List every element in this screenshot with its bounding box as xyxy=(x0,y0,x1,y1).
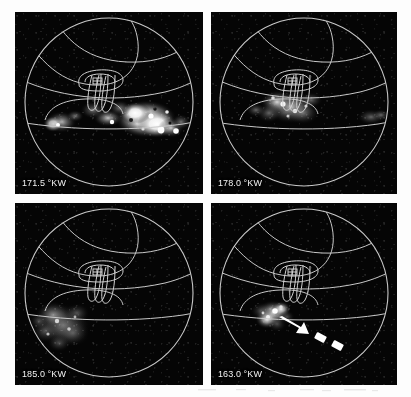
figure-root: 171.5 °KW xyxy=(0,0,411,397)
panel-label-bottom-left: 185.0 °KW xyxy=(22,369,66,379)
panel-top-right-canvas xyxy=(211,12,397,194)
panel-bottom-left[interactable]: 185.0 °KW xyxy=(15,203,203,385)
panel-top-left-canvas xyxy=(15,12,203,194)
panel-label-top-left: 171.5 °KW xyxy=(22,178,66,188)
panel-bottom-right-canvas xyxy=(211,203,397,385)
panel-bottom-left-canvas xyxy=(15,203,203,385)
panel-top-left[interactable]: 171.5 °KW xyxy=(15,12,203,194)
panel-label-bottom-right: 163.0 °KW xyxy=(218,369,262,379)
panel-bottom-right[interactable]: 163.0 °KW xyxy=(211,203,397,385)
panel-label-top-right: 178.0 °KW xyxy=(218,178,262,188)
panel-top-right[interactable]: 178.0 °KW xyxy=(211,12,397,194)
